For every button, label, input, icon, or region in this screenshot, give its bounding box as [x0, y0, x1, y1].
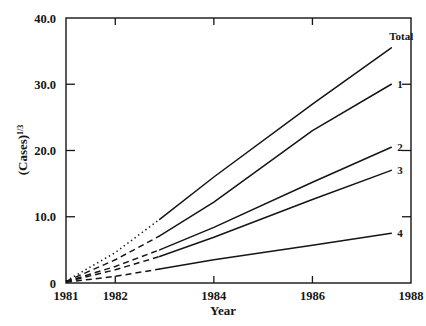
x-tick-label: 1984 [201, 289, 227, 303]
y-tick-label: 40.0 [34, 12, 56, 26]
line-chart: 19811982198419861988 010.020.030.040.0 T… [0, 0, 426, 326]
series-label-Total: Total [389, 30, 413, 42]
x-tick-label: 1981 [54, 289, 79, 303]
x-tick-label: 1988 [399, 289, 424, 303]
series-label-2: 2 [397, 141, 403, 153]
y-tick-label: 30.0 [34, 78, 56, 92]
y-tick-label: 0 [50, 277, 56, 291]
x-tick-label: 1982 [103, 289, 128, 303]
y-axis-title-exponent: 1/3 [16, 125, 25, 135]
chart-container: 19811982198419861988 010.020.030.040.0 T… [0, 0, 426, 326]
chart-background [0, 0, 426, 326]
y-tick-label: 10.0 [34, 210, 56, 224]
series-label-1: 1 [397, 78, 403, 90]
y-tick-label: 20.0 [34, 144, 56, 158]
series-label-3: 3 [397, 164, 403, 176]
x-axis-title: Year [210, 303, 236, 318]
series-label-4: 4 [397, 227, 403, 239]
y-axis-title-base: (Cases) [15, 135, 30, 175]
x-tick-label: 1986 [300, 289, 325, 303]
